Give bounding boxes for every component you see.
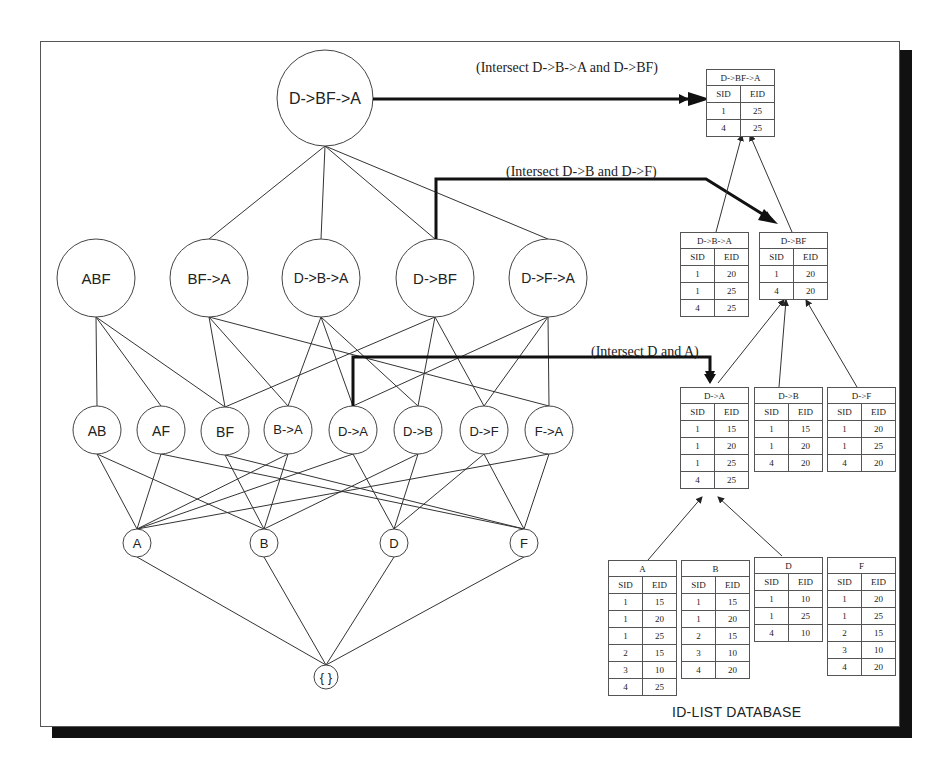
node-label: BF [216,424,234,440]
idlist-table-D: D SIDEID 110 125 410 [754,557,823,642]
table-row: 120 [609,611,677,628]
lattice-edges [96,146,549,665]
idlist-table-DBF: D->BF SIDEID 120 420 [759,232,828,300]
node-label: D->BF->A [289,90,361,107]
node-label: AF [152,423,170,439]
idlist-table-DBFA: D->BF->A SIDEID 125 425 [706,69,775,137]
col-header: EID [794,249,828,266]
table-title: D->A [681,388,749,404]
table-row: 120 [681,266,749,283]
idlist-table-DB: D->B SIDEID 115 120 420 [754,387,823,472]
table-row: 420 [755,455,823,472]
table-row: 120 [682,611,750,628]
table-row: 420 [760,283,828,300]
idlist-table-B: B SIDEID 115 120 215 310 420 [681,560,750,679]
table-row: 115 [682,594,750,611]
annotation-text: (Intersect D and A) [591,344,699,360]
table-title: D->BF [760,233,828,249]
node-label: F->A [535,424,564,439]
table-title: D->B [755,388,823,404]
node-label: B->A [273,422,303,437]
table-row: 120 [760,266,828,283]
table-row: 125 [755,608,823,625]
table-row: 420 [828,455,896,472]
table-title: B [682,561,750,577]
node-label: D->B [403,424,433,439]
root-label: { } [320,670,333,685]
node-label: D->B->A [294,270,349,286]
col-header: EID [716,577,750,594]
col-header: EID [789,404,823,421]
database-title: ID-LIST DATABASE [672,704,801,720]
node-label: D->A [338,424,368,439]
table-row: 420 [828,659,896,676]
col-header: EID [715,404,749,421]
table-row: 120 [681,438,749,455]
idlist-table-DBA: D->B->A SIDEID 120 125 425 [680,232,749,317]
table-row: 125 [609,628,677,645]
col-header: EID [741,86,775,103]
table-row: 125 [828,438,896,455]
node-label: D->F [469,424,498,439]
col-header: SID [681,404,715,421]
node-label: A [133,536,142,551]
table-title: F [828,558,896,574]
table-row: 425 [681,300,749,317]
table-title: D [755,558,823,574]
table-row: 215 [682,628,750,645]
table-row: 125 [681,455,749,472]
col-header: SID [828,404,862,421]
table-row: 115 [681,421,749,438]
table-row: 115 [755,421,823,438]
table-row: 110 [755,591,823,608]
table-row: 425 [609,679,677,696]
col-header: SID [682,577,716,594]
table-row: 120 [755,438,823,455]
col-header: EID [789,574,823,591]
idlist-table-F: F SIDEID 120 125 215 310 420 [827,557,896,676]
annotation-text: (Intersect D->B->A and D->BF) [476,60,658,76]
annotation-text: (Intersect D->B and D->F) [506,164,657,180]
table-row: 215 [828,625,896,642]
table-row: 310 [682,645,750,662]
col-header: EID [862,404,896,421]
table-row: 125 [828,608,896,625]
col-header: SID [755,574,789,591]
table-row: 120 [828,421,896,438]
table-row: 420 [682,662,750,679]
idlist-table-DA: D->A SIDEID 115 120 125 425 [680,387,749,489]
node-label: AB [88,423,107,439]
col-header: SID [609,577,643,594]
arrowhead-2 [758,209,778,224]
sequence-lattice: D->BF->A ABF BF->A D->B->A D->BF D->F->A… [0,0,943,769]
node-label: B [260,536,269,551]
idlist-table-A: A SIDEID 115 120 125 215 310 425 [608,560,677,696]
table-row: 125 [681,283,749,300]
idlist-table-DF: D->F SIDEID 120 125 420 [827,387,896,472]
table-row: 425 [707,120,775,137]
col-header: EID [862,574,896,591]
table-row: 425 [681,472,749,489]
table-row: 115 [609,594,677,611]
table-title: D->F [828,388,896,404]
table-row: 215 [609,645,677,662]
arrow-intersect-2 [436,179,772,239]
table-row: 310 [609,662,677,679]
node-label: F [520,536,528,551]
col-header: SID [707,86,741,103]
table-row: 125 [707,103,775,120]
col-header: EID [715,249,749,266]
nodes-level1 [123,529,538,557]
node-label: D->F->A [521,270,575,286]
table-row: 120 [828,591,896,608]
table-row: 410 [755,625,823,642]
node-label: BF->A [188,270,231,287]
node-label: ABF [81,270,110,287]
col-header: EID [643,577,677,594]
col-header: SID [681,249,715,266]
table-title: D->B->A [681,233,749,249]
node-label: D [389,536,398,551]
arrowhead-3 [704,374,716,384]
node-label: D->BF [413,270,457,287]
table-title: D->BF->A [707,70,775,86]
